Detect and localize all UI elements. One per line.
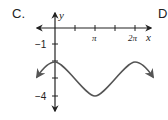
y-axis-label: y: [58, 9, 64, 21]
y-tick-label-neg1: −1: [35, 39, 47, 50]
graph: y x π 2π −1 −4: [0, 0, 168, 120]
x-tick-label-pi: π: [92, 33, 97, 43]
y-tick-label-neg4: −4: [35, 91, 47, 102]
x-axis-label: x: [145, 31, 151, 43]
x-tick-label-2pi: 2π: [128, 33, 138, 43]
